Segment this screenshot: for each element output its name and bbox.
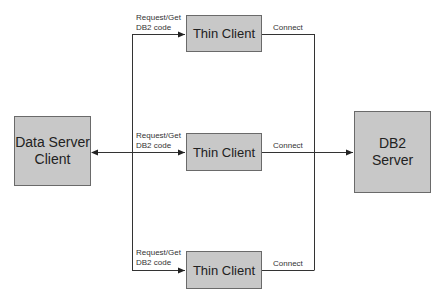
node-label: Thin Client <box>193 26 255 41</box>
db2-server-node: DB2 Server <box>354 111 431 193</box>
edge-label-line: Request/Get <box>136 13 181 23</box>
node-label: Server <box>372 152 413 169</box>
thin-client-top-node: Thin Client <box>186 15 262 52</box>
thin-client-bottom-node: Thin Client <box>186 251 262 289</box>
node-label: Thin Client <box>193 145 255 160</box>
edge-label-connect-bottom: Connect <box>273 259 303 269</box>
node-label: Thin Client <box>193 263 255 278</box>
edge-label-connect-top: Connect <box>273 23 303 33</box>
edge-label-line: DB2 code <box>136 141 181 151</box>
thin-client-middle-node: Thin Client <box>186 133 262 171</box>
node-label: Data Server <box>15 134 90 151</box>
edge-label-request-top: Request/Get DB2 code <box>136 13 181 33</box>
edge-label-line: Request/Get <box>136 248 181 258</box>
edge-label-request-bottom: Request/Get DB2 code <box>136 248 181 268</box>
data-server-client-node: Data Server Client <box>14 116 91 186</box>
edge-label-connect-middle: Connect <box>273 141 303 151</box>
edge-label-line: Request/Get <box>136 131 181 141</box>
edge-label-line: DB2 code <box>136 258 181 268</box>
edge-label-request-middle: Request/Get DB2 code <box>136 131 181 151</box>
edge-label-line: DB2 code <box>136 23 181 33</box>
node-label: Client <box>15 151 90 168</box>
node-label: DB2 <box>372 135 413 152</box>
